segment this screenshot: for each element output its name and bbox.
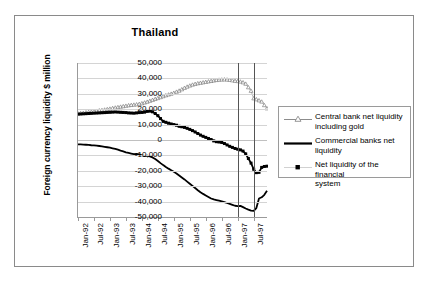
data-point-marker [194, 130, 197, 133]
y-tick-label: -20,000 [102, 166, 162, 175]
data-point-marker [164, 121, 167, 124]
data-point-marker [226, 143, 229, 146]
data-point-marker [260, 166, 263, 169]
y-tick-label: -40,000 [102, 197, 162, 206]
data-point-marker [92, 112, 95, 115]
x-tick-mark [254, 217, 255, 221]
legend-label-central-bank: Central bank net liquidity including gol… [313, 112, 403, 131]
x-tick-label: Jan-96 [208, 223, 217, 247]
data-point-marker [183, 126, 186, 129]
legend-label-line2: system [315, 179, 340, 188]
data-point-marker [223, 142, 226, 145]
x-tick-label: Jul-93 [128, 223, 137, 245]
chart-figure: Thailand Foreign currency liquidity $ mi… [14, 15, 414, 267]
data-point-marker [247, 157, 250, 160]
y-tick-label: 40,000 [102, 73, 162, 82]
data-point-marker [82, 112, 85, 115]
legend-label-line1: Central bank net liquidity [315, 112, 403, 121]
x-tick-label: Jan-93 [112, 223, 121, 247]
chart-legend: Central bank net liquidity including gol… [278, 106, 411, 178]
data-point-marker [266, 165, 269, 168]
x-tick-label: Jul-96 [224, 223, 233, 245]
data-point-marker [180, 125, 183, 128]
y-tick-label: 0 [102, 135, 162, 144]
data-point-marker [84, 112, 87, 115]
data-point-marker [156, 114, 159, 117]
legend-label-commercial-banks: Commercial banks net liquidity [313, 136, 395, 155]
x-tick-mark [94, 217, 95, 221]
y-tick-label: 10,000 [102, 120, 162, 129]
legend-item-commercial-banks[interactable]: Commercial banks net liquidity [283, 136, 406, 155]
triangle-line-key-icon [283, 112, 313, 125]
y-tick-label: 30,000 [102, 89, 162, 98]
data-point-marker [186, 127, 189, 130]
y-tick-label: -10,000 [102, 150, 162, 159]
data-point-marker [250, 162, 253, 165]
legend-label-line2: including gold [315, 122, 364, 131]
x-tick-mark [238, 217, 239, 221]
data-point-marker [199, 134, 202, 137]
thick-line-key-icon [283, 136, 313, 149]
square-key-icon [283, 160, 313, 173]
x-tick-label: Jan-95 [176, 223, 185, 247]
x-tick-label: Jan-94 [144, 223, 153, 247]
y-tick-label: -50,000 [102, 212, 162, 221]
data-point-marker [79, 112, 82, 115]
x-tick-mark [222, 217, 223, 221]
y-tick-label: -30,000 [102, 181, 162, 190]
x-tick-label: Jul-95 [192, 223, 201, 245]
x-tick-mark [190, 217, 191, 221]
chart-title: Thailand [15, 26, 295, 38]
data-point-marker [196, 132, 199, 135]
data-point-marker [239, 148, 242, 151]
legend-label-line1: Net liquidity of the financial [315, 160, 379, 179]
data-point-marker [162, 120, 165, 123]
x-tick-mark [206, 217, 207, 221]
legend-label-net-liquidity: Net liquidity of the financial system [313, 160, 406, 189]
data-point-marker [98, 111, 101, 114]
x-tick-mark [78, 217, 79, 221]
data-point-marker [220, 141, 223, 144]
data-point-marker [263, 165, 266, 168]
data-point-marker [204, 136, 207, 139]
x-tick-mark [174, 217, 175, 221]
data-point-marker [90, 112, 93, 115]
x-tick-label: Jul-97 [256, 223, 265, 245]
data-point-marker [191, 129, 194, 132]
legend-item-net-liquidity[interactable]: Net liquidity of the financial system [283, 160, 406, 189]
x-tick-label: Jul-94 [160, 223, 169, 245]
y-axis-title: Foreign currency liquidity $ million [42, 45, 52, 205]
data-point-marker [95, 112, 98, 115]
data-point-marker [231, 146, 234, 149]
data-point-marker [242, 150, 245, 153]
x-tick-label: Jul-92 [96, 223, 105, 245]
data-point-marker [228, 145, 231, 148]
reference-line-jul-97 [254, 63, 255, 217]
legend-label-line1: Commercial banks net [315, 136, 395, 145]
data-point-marker [234, 147, 237, 150]
reference-line-jan-97 [238, 63, 239, 217]
y-tick-label: 50,000 [102, 58, 162, 67]
data-point-marker [188, 128, 191, 131]
x-tick-label: Jan-92 [81, 223, 90, 247]
legend-label-line2: liquidity [315, 146, 342, 155]
legend-item-central-bank[interactable]: Central bank net liquidity including gol… [283, 112, 406, 131]
data-point-marker [87, 112, 90, 115]
y-tick-label: 20,000 [102, 104, 162, 113]
x-tick-label: Jan-97 [240, 223, 249, 247]
data-point-marker [202, 135, 205, 138]
